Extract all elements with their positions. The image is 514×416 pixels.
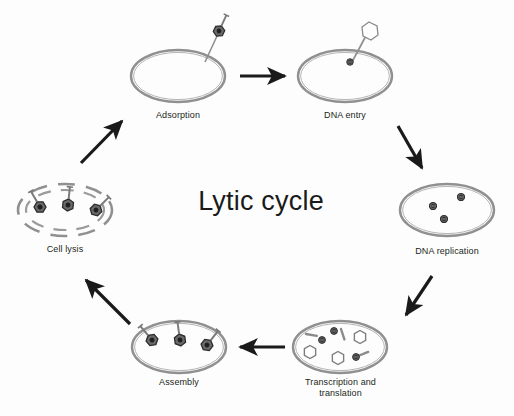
arrow-dna-replication-to-transcription [406,276,432,315]
released-phage-3 [88,193,112,217]
cell-membrane-outer [131,50,225,102]
dna-strand-1 [319,337,326,344]
phage-adsorbed [205,13,231,62]
tail-rod-2 [341,329,344,339]
capsid-head-2 [354,331,365,344]
stage-label-dna-entry: DNA entry [305,110,385,121]
cell-membrane-inner [403,186,492,233]
lytic-cycle-figure: Lytic cycle Adsorption DNA entry DNA rep… [0,0,514,416]
cell-membrane-inner [301,52,390,99]
cell-membrane-outer [400,184,494,236]
arrow-cell-lysis-to-adsorption [81,121,122,163]
capsid-head-1 [304,346,315,359]
injected-dna-icon [347,59,354,66]
stage-assembly [132,321,226,373]
dna-copy-3 [440,215,447,222]
stage-label-adsorption: Adsorption [138,110,218,121]
arrow-dna-entry-to-dna-replication [398,126,422,168]
dna-strand-2 [331,328,338,335]
assembled-phage-2 [172,321,186,346]
phage-injecting [347,22,378,65]
stage-label-transcription-translation: Transcription and translation [288,377,393,399]
dna-copy-1 [429,202,436,209]
stage-dna-replication [400,184,494,236]
stage-adsorption [131,13,231,102]
cell-membrane-outer [298,50,392,102]
arrow-assembly-to-cell-lysis [86,280,130,324]
page-title: Lytic cycle [176,186,346,217]
stage-label-cell-lysis: Cell lysis [25,244,105,255]
tail-rod-1 [306,334,317,336]
stage-cell-lysis [18,184,113,236]
capsid-head-3 [332,352,343,365]
empty-capsid-icon [362,22,378,40]
dna-copy-2 [457,193,464,200]
dna-strand-3 [353,354,360,361]
cell-membrane-inner [134,52,223,99]
assembled-phage-3 [199,327,222,352]
stage-dna-entry [298,22,392,102]
stage-label-assembly: Assembly [139,377,219,388]
stage-transcription-translation [293,321,387,373]
stage-label-dna-replication: DNA replication [397,246,497,257]
